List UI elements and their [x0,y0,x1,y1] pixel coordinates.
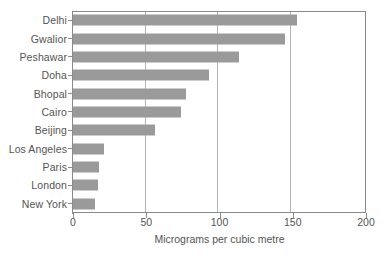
bar-row: New York [0,195,389,213]
bar [73,70,209,81]
bar [73,180,98,191]
air-pollution-bar-chart: DelhiGwaliorPeshawarDohaBhopalCairoBeiji… [0,0,389,262]
bar [73,106,181,117]
bar-row: Delhi [0,11,389,29]
x-axis-tick-label: 0 [70,216,76,228]
bar-row: Paris [0,158,389,176]
bar-row: Beijing [0,121,389,139]
bar-row: Peshawar [0,48,389,66]
bar-row: Gwalior [0,29,389,47]
bar-rows: DelhiGwaliorPeshawarDohaBhopalCairoBeiji… [0,11,389,213]
bar-row: Doha [0,66,389,84]
x-axis-title: Micrograms per cubic metre [73,233,366,245]
x-axis-tick-label: 150 [284,216,302,228]
category-label: Cairo [41,106,67,118]
bar [73,125,155,136]
category-label: Bhopal [34,88,67,100]
category-label: Delhi [43,14,67,26]
bar [73,51,239,62]
bar-row: Bhopal [0,84,389,102]
x-axis-tick-label: 200 [357,216,375,228]
bar-row: Los Angeles [0,140,389,158]
category-label: Beijing [35,124,67,136]
bar [73,88,186,99]
category-label: Doha [41,69,67,81]
category-label: London [31,179,67,191]
x-axis-tick-label: 50 [140,216,152,228]
bar [73,15,297,26]
category-label: New York [22,198,67,210]
category-label: Gwalior [31,33,67,45]
bar [73,143,104,154]
bar [73,162,99,173]
bar-row: London [0,176,389,194]
category-label: Paris [43,161,67,173]
category-label: Los Angeles [9,143,67,155]
bar [73,198,95,209]
bar [73,33,285,44]
category-label: Peshawar [20,51,68,63]
x-axis-tick-label: 100 [211,216,229,228]
bar-row: Cairo [0,103,389,121]
